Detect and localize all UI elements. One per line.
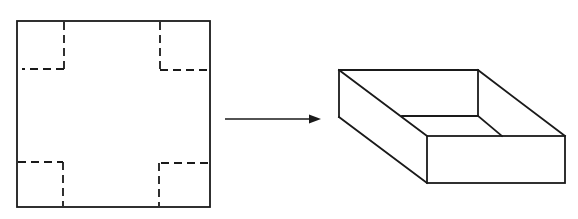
box-inner-floor-right-edge	[478, 116, 502, 136]
arrow-head-icon	[309, 115, 321, 124]
corner-cut-top-left	[22, 22, 64, 69]
open-box	[339, 70, 565, 183]
net-outline	[17, 21, 210, 207]
box-front-face	[427, 136, 565, 183]
corner-cut-bottom-left	[18, 162, 63, 206]
diagram-canvas: A square sheet with dashed fold/cut line…	[0, 0, 578, 219]
transform-arrow	[225, 115, 321, 124]
flat-net	[17, 21, 210, 207]
corner-cut-bottom-right	[159, 163, 208, 206]
diagram-svg	[0, 0, 578, 219]
corner-cut-top-right	[160, 22, 208, 70]
